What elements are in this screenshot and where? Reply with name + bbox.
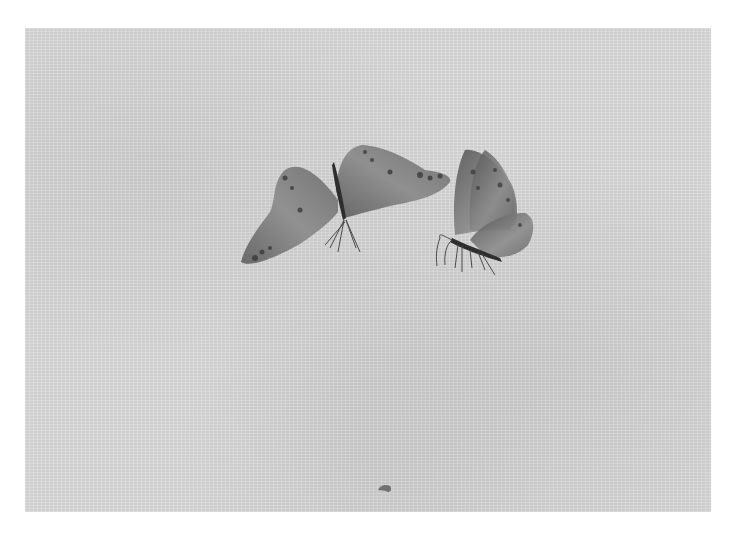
butterfly-left [241, 145, 450, 264]
painting-layer [0, 0, 734, 543]
butterfly-right [436, 150, 533, 275]
small-insect [378, 485, 391, 492]
